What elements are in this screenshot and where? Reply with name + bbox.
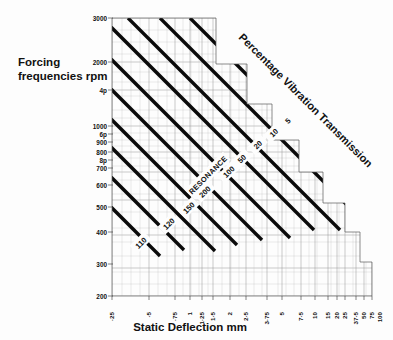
x-tick-0-75: ·75 <box>171 311 178 321</box>
vibration-transmission-nomograph: 3000 2000 4p 1000 6p 900 800 8p 700 600 … <box>0 0 393 340</box>
x-tick-37-5: 37·5 <box>352 311 359 324</box>
y-tick-3000: 3000 <box>93 15 108 22</box>
x-tick-0-5: ·5 <box>145 311 152 317</box>
y-tick-6p: 6p <box>100 131 108 139</box>
forcing-title-line1: Forcing <box>18 56 60 68</box>
x-tick-2: 2 <box>226 311 233 315</box>
x-tick-75: 75 <box>368 311 375 318</box>
x-tick-3-75: 3·75 <box>263 311 270 324</box>
forcing-title-line2: frequencies rpm <box>18 70 107 82</box>
y-tick-2000: 2000 <box>93 59 108 66</box>
x-tick-7-5: 7·5 <box>297 311 304 321</box>
y-tick-800: 800 <box>96 149 107 156</box>
y-tick-4p: 4p <box>100 87 108 95</box>
y-tick-8p: 8p <box>100 157 108 165</box>
x-tick-20: 20 <box>333 311 340 318</box>
x-tick-100: 100 <box>376 311 383 322</box>
y-tick-300: 300 <box>96 261 107 268</box>
x-tick-15: 15 <box>324 311 331 318</box>
y-tick-600: 600 <box>96 182 107 189</box>
y-tick-400: 400 <box>96 229 107 236</box>
y-tick-200: 200 <box>96 293 107 300</box>
x-tick-0-25: ·25 <box>108 311 115 321</box>
x-tick-50: 50 <box>360 311 367 318</box>
nomograph-svg: 3000 2000 4p 1000 6p 900 800 8p 700 600 … <box>0 0 393 340</box>
y-tick-900: 900 <box>96 139 107 146</box>
x-tick-25: 25 <box>341 311 348 318</box>
x-tick-10: 10 <box>311 311 318 318</box>
y-tick-700: 700 <box>96 165 107 172</box>
y-tick-500: 500 <box>96 204 107 211</box>
x-tick-5: 5 <box>278 311 285 315</box>
page-background <box>0 0 393 340</box>
y-tick-1000: 1000 <box>93 123 108 130</box>
x-tick-2-5: 2·5 <box>242 311 249 321</box>
x-tick-1: 1 <box>186 311 193 315</box>
x-axis-title: Static Deflection mm <box>133 321 247 333</box>
x-tick-1-5: 1·5 <box>209 311 216 321</box>
